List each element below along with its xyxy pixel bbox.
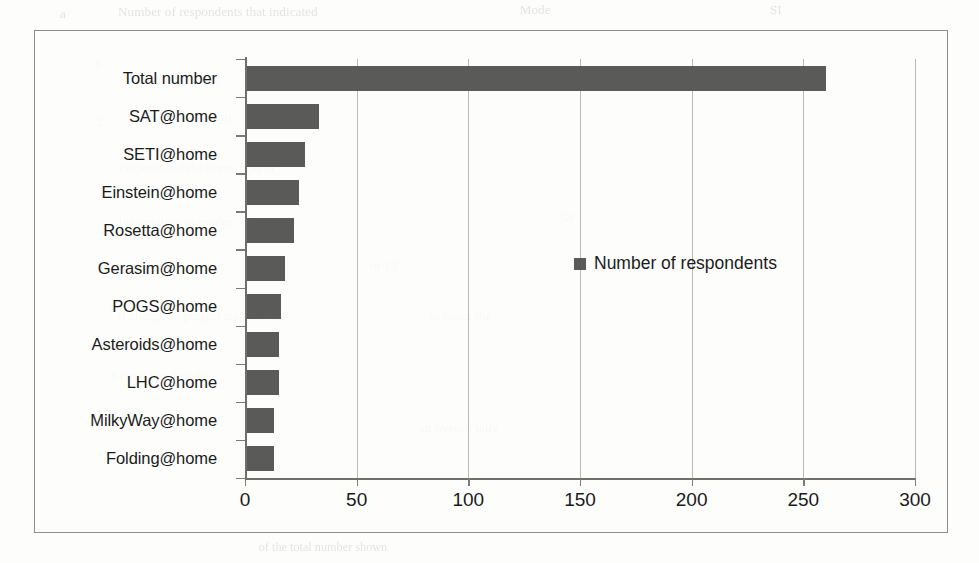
gridline	[915, 59, 916, 478]
category-label: SETI@home	[35, 135, 229, 173]
bar	[245, 294, 281, 319]
category-label: MilkyWay@home	[35, 402, 229, 440]
x-axis-tick-label: 200	[676, 489, 708, 511]
x-axis-tick-label: 150	[564, 489, 596, 511]
x-axis-tick	[692, 478, 693, 486]
category-label: SAT@home	[35, 97, 229, 135]
y-axis-tick	[236, 440, 245, 441]
x-axis-tick	[580, 478, 581, 486]
bar	[245, 142, 305, 167]
bar	[245, 104, 319, 129]
y-axis-tick	[236, 364, 245, 365]
bar-slot	[245, 59, 915, 97]
bar-slot	[245, 440, 915, 478]
bar-slot	[245, 288, 915, 326]
x-axis-tick-label: 50	[346, 489, 367, 511]
y-axis-tick	[236, 402, 245, 403]
category-label: LHC@home	[35, 364, 229, 402]
y-axis-tick	[236, 249, 245, 250]
category-label: Einstein@home	[35, 173, 229, 211]
bar-slot	[245, 173, 915, 211]
bar-slot	[245, 97, 915, 135]
y-axis-line	[245, 57, 247, 480]
bar	[245, 446, 274, 471]
bleedthrough-text: a	[60, 6, 66, 22]
bar-slot	[245, 135, 915, 173]
category-label: Folding@home	[35, 440, 229, 478]
bar-slot	[245, 211, 915, 249]
x-axis-tick	[468, 478, 469, 486]
x-axis-ticks	[245, 478, 916, 486]
legend-label: Number of respondents	[594, 253, 777, 274]
y-axis-tick	[236, 211, 245, 212]
y-axis-tick	[236, 478, 245, 479]
x-axis-tick	[357, 478, 358, 486]
category-label: Asteroids@home	[35, 326, 229, 364]
bar-slot	[245, 326, 915, 364]
bar-chart: Total numberSAT@homeSETI@homeEinstein@ho…	[35, 31, 947, 532]
bar	[245, 332, 279, 357]
bar	[245, 408, 274, 433]
chart-legend: Number of respondents	[574, 253, 777, 274]
category-label: POGS@home	[35, 288, 229, 326]
x-axis-tick	[915, 478, 916, 486]
y-axis-tick	[236, 326, 245, 327]
bar-slot	[245, 402, 915, 440]
x-axis-tick-label: 100	[452, 489, 484, 511]
y-axis-tick	[236, 288, 245, 289]
y-axis-tick	[236, 135, 245, 136]
bleedthrough-text: of the total number shown	[259, 540, 388, 555]
category-label: Rosetta@home	[35, 211, 229, 249]
bar	[245, 66, 826, 91]
bar	[245, 256, 285, 281]
bar	[245, 180, 299, 205]
x-axis-tick-label: 300	[899, 489, 931, 511]
y-axis-tick	[236, 59, 245, 60]
bleedthrough-text: SI	[770, 2, 782, 18]
x-axis-tick-labels: 050100150200250300	[245, 489, 916, 519]
bar	[245, 370, 279, 395]
figure-frame: Total numberSAT@homeSETI@homeEinstein@ho…	[34, 30, 948, 533]
y-axis-ticks	[236, 59, 245, 478]
y-axis-tick	[236, 173, 245, 174]
legend-swatch-icon	[574, 258, 586, 270]
y-axis-tick	[236, 97, 245, 98]
x-axis-tick	[803, 478, 804, 486]
bleedthrough-text: Number of respondents that indicated	[118, 4, 318, 20]
category-label: Gerasim@home	[35, 249, 229, 287]
category-label: Total number	[35, 59, 229, 97]
bar	[245, 218, 294, 243]
x-axis-tick-label: 0	[240, 489, 251, 511]
bleedthrough-text: Mode	[520, 2, 551, 18]
x-axis-tick-label: 250	[787, 489, 819, 511]
bar-slot	[245, 364, 915, 402]
category-axis-labels: Total numberSAT@homeSETI@homeEinstein@ho…	[35, 59, 229, 478]
